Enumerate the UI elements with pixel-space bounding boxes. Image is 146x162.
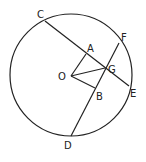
label-D: D — [64, 140, 72, 151]
label-O: O — [58, 71, 66, 82]
geometry-diagram: C F A G O E B D — [0, 0, 146, 162]
label-G: G — [108, 64, 116, 75]
label-F: F — [121, 32, 127, 43]
label-B: B — [96, 91, 103, 102]
label-E: E — [130, 88, 136, 99]
chord-FD — [71, 43, 119, 136]
diagram-canvas: C F A G O E B D — [0, 0, 146, 162]
segment-OB — [71, 76, 95, 88]
label-C: C — [37, 9, 44, 20]
label-A: A — [87, 43, 94, 54]
